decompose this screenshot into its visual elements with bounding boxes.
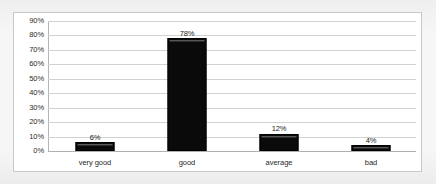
y-axis-tick-label: 10% xyxy=(29,133,44,141)
category-label: very good xyxy=(79,159,112,167)
y-axis-tick-label: 80% xyxy=(29,32,44,40)
bar-slot: 4% xyxy=(325,21,417,151)
y-axis-tick-label: 20% xyxy=(29,118,44,126)
bar-slot: 78% xyxy=(141,21,233,151)
bar-highlight xyxy=(262,136,297,138)
bar-value-label: 6% xyxy=(90,134,101,142)
bar[interactable]: 12% xyxy=(260,134,299,151)
chart-frame: 0%10%20%30%40%50%60%70%80%90% 6%78%12%4%… xyxy=(13,12,422,172)
y-axis-tick-label: 60% xyxy=(29,61,44,69)
bar-highlight xyxy=(170,40,205,42)
bars-group: 6%78%12%4% xyxy=(49,21,416,151)
bar-value-label: 12% xyxy=(272,125,287,133)
category-label: good xyxy=(179,159,196,167)
y-axis-tick-label: 70% xyxy=(29,46,44,54)
bar[interactable]: 78% xyxy=(168,38,207,151)
bar-slot: 12% xyxy=(233,21,325,151)
bar-highlight xyxy=(354,147,389,149)
plot-area: 0%10%20%30%40%50%60%70%80%90% 6%78%12%4% xyxy=(48,21,416,151)
gridline-0 xyxy=(48,151,416,152)
bar[interactable]: 4% xyxy=(352,145,391,151)
bar-value-label: 78% xyxy=(180,30,195,38)
y-axis-tick-label: 40% xyxy=(29,89,44,97)
y-axis-tick-label: 90% xyxy=(29,17,44,25)
bar-highlight xyxy=(78,144,113,146)
bar-slot: 6% xyxy=(49,21,141,151)
bar-value-label: 4% xyxy=(366,137,377,145)
y-axis-tick-label: 30% xyxy=(29,104,44,112)
category-label: bad xyxy=(365,159,377,167)
bar[interactable]: 6% xyxy=(76,142,115,151)
chart-screenshot: 0%10%20%30%40%50%60%70%80%90% 6%78%12%4%… xyxy=(0,0,436,184)
y-axis-tick-label: 0% xyxy=(33,147,44,155)
category-label: average xyxy=(266,159,293,167)
category-axis: very goodgoodaveragebad xyxy=(49,159,416,173)
y-axis-tick-label: 50% xyxy=(29,75,44,83)
